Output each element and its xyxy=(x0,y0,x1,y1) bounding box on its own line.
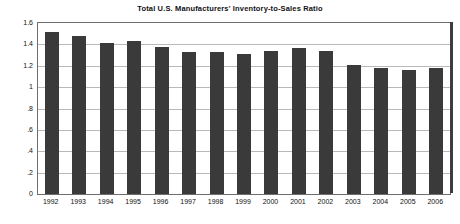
x-axis-tick-label: 2006 xyxy=(427,197,443,206)
bar xyxy=(210,52,224,194)
x-axis-tick-label: 1992 xyxy=(43,197,59,206)
x-axis-tick-label: 1999 xyxy=(235,197,251,206)
bar xyxy=(319,51,333,194)
y-axis-tick-label: 0 xyxy=(29,190,33,197)
x-axis-tick-label: 2002 xyxy=(318,197,334,206)
bar xyxy=(45,32,59,194)
bar xyxy=(237,54,251,194)
y-axis-tick-label: .2 xyxy=(27,168,33,175)
bar xyxy=(72,36,86,194)
y-axis-tick-label: 1 xyxy=(29,83,33,90)
y-axis-tick-label: 1.2 xyxy=(23,61,33,68)
bar xyxy=(292,48,306,194)
bar xyxy=(402,70,416,194)
x-axis-tick-label: 2000 xyxy=(263,197,279,206)
bar xyxy=(264,51,278,194)
y-axis-tick-label: 1.6 xyxy=(23,19,33,26)
bar xyxy=(100,43,114,194)
x-axis-tick-label: 1998 xyxy=(208,197,224,206)
y-axis-tick-label: .4 xyxy=(27,147,33,154)
x-axis-tick-label: 1993 xyxy=(70,197,86,206)
x-axis-tick-label: 2001 xyxy=(290,197,306,206)
x-axis-tick-label: 1997 xyxy=(180,197,196,206)
chart-title: Total U.S. Manufacturers' Inventory-to-S… xyxy=(0,4,460,13)
bar xyxy=(429,68,443,194)
bar xyxy=(347,65,361,194)
x-axis-tick-label: 2005 xyxy=(400,197,416,206)
x-axis-tick-label: 1996 xyxy=(153,197,169,206)
y-axis-tick-label: .6 xyxy=(27,125,33,132)
x-axis: 1992199319941995199619971998199920002001… xyxy=(37,197,451,211)
x-axis-tick-label: 1995 xyxy=(125,197,141,206)
bar xyxy=(127,41,141,194)
x-axis-tick-label: 2004 xyxy=(373,197,389,206)
y-axis-tick-label: .8 xyxy=(27,104,33,111)
plot-area xyxy=(37,22,451,195)
x-axis-tick-label: 1994 xyxy=(98,197,114,206)
x-axis-tick-label: 2003 xyxy=(345,197,361,206)
chart-container: Total U.S. Manufacturers' Inventory-to-S… xyxy=(0,0,460,224)
y-axis-tick-label: 1.4 xyxy=(23,40,33,47)
bar xyxy=(155,47,169,194)
bar xyxy=(182,52,196,194)
y-axis: 0.2.4.6.811.21.41.6 xyxy=(0,22,33,195)
bar xyxy=(374,68,388,194)
